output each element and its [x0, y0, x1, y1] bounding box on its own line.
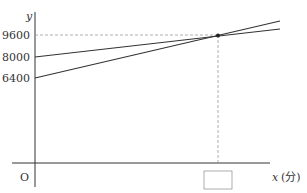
intersection-point	[216, 34, 220, 38]
line-b	[35, 21, 280, 78]
x-axis-label: x	[272, 171, 279, 184]
tick-6400: 6400	[2, 72, 30, 85]
answer-box[interactable]	[204, 171, 232, 189]
line-chart: y 9600 8000 6400 O x (分)	[0, 0, 307, 193]
x-axis-unit: (分)	[281, 171, 301, 184]
line-a	[35, 29, 280, 57]
origin-label: O	[20, 171, 29, 184]
tick-9600: 9600	[2, 29, 30, 42]
tick-8000: 8000	[2, 51, 30, 64]
y-axis-label: y	[25, 10, 33, 23]
